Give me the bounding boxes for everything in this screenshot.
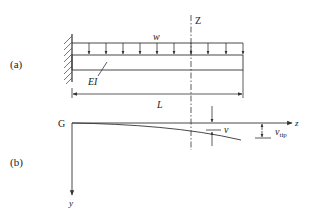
- length-dimension: L: [72, 70, 243, 110]
- panel-b-label: (b): [10, 156, 23, 169]
- distributed-load: w: [72, 31, 243, 54]
- origin-label-g: G: [58, 118, 65, 129]
- fixed-support-wall: [64, 34, 72, 84]
- tip-deflection-marker: vtip: [255, 124, 287, 139]
- beam: [72, 55, 243, 70]
- deflection-label-v: v: [224, 124, 229, 135]
- section-label-z: Z: [195, 15, 201, 26]
- cantilever-beam-diagram: (a): [0, 0, 311, 220]
- stiffness-label-ei: EI: [87, 76, 98, 87]
- deflection-v-marker: v: [206, 106, 229, 146]
- panel-a-label: (a): [10, 58, 23, 71]
- length-label-l: L: [156, 99, 163, 110]
- deflected-curve: [72, 123, 241, 140]
- load-label-w: w: [153, 31, 160, 42]
- tip-deflection-label: vtip: [275, 126, 287, 139]
- panel-b: (b) G z y v vtip: [10, 106, 299, 208]
- z-axis-label: z: [294, 118, 299, 128]
- tip-deflection-subscript: tip: [279, 131, 287, 139]
- y-axis-label: y: [68, 198, 73, 208]
- stiffness-leader-line: [98, 62, 107, 76]
